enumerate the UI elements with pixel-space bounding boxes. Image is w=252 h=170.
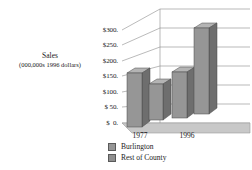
x-axis-tick-1977: 1977 — [125, 131, 155, 140]
legend-label-rest-of-county: Rest of County — [121, 154, 166, 162]
bar-1996-rest-of-county — [194, 23, 217, 114]
legend-label-burlington: Burlington — [121, 143, 154, 151]
y-axis-tick-0: $ 0. — [92, 119, 118, 127]
legend-swatch-icon-burlington — [108, 143, 116, 151]
y-axis-tick-150: $150. — [92, 72, 118, 80]
chart-container: Sales (000,000s 1996 dollars) — [0, 0, 252, 170]
bar-1977-rest-of-county — [149, 79, 171, 120]
y-axis-tick-200: $200. — [92, 57, 118, 65]
bar-1977-burlington — [127, 68, 150, 127]
bar-1996-burlington — [172, 67, 195, 118]
y-axis-tick-100: $100. — [92, 88, 118, 96]
y-axis-tick-50: $ 50. — [92, 103, 118, 111]
y-axis-tick-250: $250. — [92, 41, 118, 49]
chart-legend: Burlington Rest of County — [108, 141, 166, 163]
legend-item-burlington: Burlington — [108, 141, 166, 152]
legend-swatch-icon-rest-of-county — [108, 154, 116, 162]
y-axis-tick-300: $300. — [92, 26, 118, 34]
legend-item-rest-of-county: Rest of County — [108, 152, 166, 163]
x-axis-tick-1996: 1996 — [172, 131, 202, 140]
